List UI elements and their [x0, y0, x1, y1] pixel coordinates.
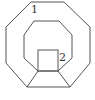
- left-connector-line: [27, 71, 38, 87]
- octagon-diagram: 1 2: [0, 0, 95, 100]
- inner-square: [38, 50, 58, 71]
- label-1: 1: [31, 3, 38, 16]
- label-2: 2: [59, 51, 66, 64]
- outer-octagon: [6, 2, 90, 87]
- right-connector-line: [58, 71, 70, 87]
